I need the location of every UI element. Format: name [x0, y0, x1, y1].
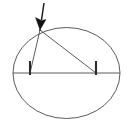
- geometry-figure-svg: [0, 0, 129, 126]
- pointer-arrow-head-icon: [36, 18, 47, 31]
- pointer-arrow-shaft: [42, 3, 45, 20]
- right-ray-from-apex: [40, 30, 96, 73]
- apex-vertex-point: [39, 29, 41, 31]
- geometry-figure-canvas: [0, 0, 129, 126]
